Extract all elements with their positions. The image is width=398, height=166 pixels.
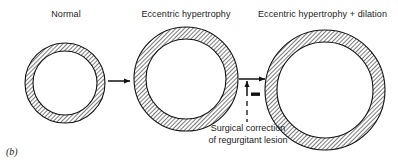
stage-label-normal: Normal bbox=[0, 9, 132, 20]
inhibition-minus-icon bbox=[251, 93, 260, 96]
surgical-correction-caption-line-1: Surgical correction bbox=[177, 123, 319, 135]
figure-panel-b: Normal Eccentric hypertrophy Eccentric h… bbox=[0, 0, 398, 166]
surgical-correction-caption: Surgical correction of regurgitant lesio… bbox=[177, 123, 319, 146]
stage-label-eccentric-hypertrophy: Eccentric hypertrophy bbox=[120, 9, 252, 20]
surgical-correction-caption-line-2: of regurgitant lesion bbox=[177, 135, 319, 147]
stage-label-eccentric-hypertrophy-plus-dilation: Eccentric hypertrophy + dilation bbox=[247, 9, 398, 20]
panel-letter-label: (b) bbox=[6, 146, 18, 157]
